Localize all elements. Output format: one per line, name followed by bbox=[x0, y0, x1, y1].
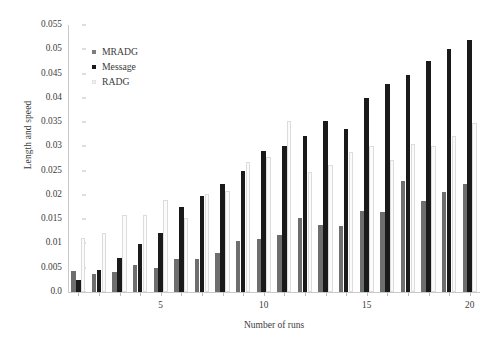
bar-radg-run-20 bbox=[472, 123, 476, 292]
x-tick-label: 15 bbox=[362, 300, 371, 310]
bar-message-run-17 bbox=[406, 75, 410, 292]
bar-chart-figure: Length and speed 0.00.0050.010.0150.020.… bbox=[0, 0, 494, 343]
x-tick-mark bbox=[181, 292, 182, 296]
bar-message-run-13 bbox=[323, 121, 327, 292]
x-tick-mark bbox=[99, 292, 100, 296]
bar-radg-run-8 bbox=[225, 191, 229, 292]
bar-mradg-run-1 bbox=[71, 271, 75, 292]
bar-mradg-run-18 bbox=[421, 201, 425, 292]
x-tick-mark bbox=[449, 292, 450, 296]
bar-radg-run-19 bbox=[452, 136, 456, 292]
bar-radg-run-3 bbox=[122, 215, 126, 292]
x-tick-mark bbox=[78, 292, 79, 296]
bar-group bbox=[212, 25, 233, 292]
bar-radg-run-11 bbox=[287, 121, 291, 292]
legend-item-mradg: MRADG bbox=[92, 44, 212, 59]
bar-mradg-run-15 bbox=[360, 211, 364, 292]
bar-message-run-19 bbox=[447, 49, 451, 292]
y-tick-label: 0.03 bbox=[18, 142, 62, 151]
bar-message-run-15 bbox=[364, 98, 368, 292]
bar-message-run-9 bbox=[241, 171, 245, 292]
bar-message-run-5 bbox=[158, 233, 162, 292]
bar-group bbox=[356, 25, 377, 292]
y-tick-label: 0.05 bbox=[18, 45, 62, 54]
bar-message-run-12 bbox=[303, 136, 307, 292]
bar-group bbox=[439, 25, 460, 292]
legend-label: RADG bbox=[102, 76, 129, 87]
legend-item-radg: RADG bbox=[92, 74, 212, 89]
bar-group bbox=[253, 25, 274, 292]
x-tick-label: 20 bbox=[465, 300, 474, 310]
bar-group bbox=[418, 25, 439, 292]
bar-mradg-run-8 bbox=[215, 253, 219, 292]
x-tick-mark bbox=[264, 292, 265, 296]
bar-message-run-2 bbox=[97, 270, 101, 292]
bar-mradg-run-4 bbox=[133, 265, 137, 292]
bar-mradg-run-9 bbox=[236, 241, 240, 292]
bar-mradg-run-19 bbox=[442, 192, 446, 292]
y-tick-label: 0.015 bbox=[18, 215, 62, 224]
x-tick-mark bbox=[408, 292, 409, 296]
bar-mradg-run-16 bbox=[380, 212, 384, 292]
bar-group bbox=[233, 25, 254, 292]
bar-group bbox=[377, 25, 398, 292]
bar-message-run-3 bbox=[117, 258, 121, 292]
bar-group bbox=[398, 25, 419, 292]
y-tick-label: 0.025 bbox=[18, 166, 62, 175]
bar-group bbox=[68, 25, 89, 292]
bar-mradg-run-12 bbox=[298, 218, 302, 292]
x-tick-mark bbox=[367, 292, 368, 296]
bar-message-run-16 bbox=[385, 84, 389, 292]
bar-message-run-7 bbox=[200, 196, 204, 292]
bar-message-run-4 bbox=[138, 244, 142, 292]
bar-group bbox=[295, 25, 316, 292]
bar-radg-run-15 bbox=[369, 146, 373, 292]
bar-mradg-run-2 bbox=[92, 274, 96, 292]
bar-mradg-run-6 bbox=[174, 259, 178, 292]
bar-mradg-run-17 bbox=[401, 181, 405, 292]
x-tick-label: 10 bbox=[259, 300, 268, 310]
bar-message-run-6 bbox=[179, 207, 183, 292]
bar-message-run-11 bbox=[282, 146, 286, 292]
y-tick-label: 0.055 bbox=[18, 20, 62, 29]
x-tick-mark bbox=[161, 292, 162, 296]
y-tick-label: 0.0 bbox=[18, 287, 62, 296]
legend-swatch-icon bbox=[92, 65, 96, 69]
bar-group bbox=[459, 25, 480, 292]
bar-radg-run-7 bbox=[205, 194, 209, 292]
bar-radg-run-16 bbox=[390, 160, 394, 292]
bar-radg-run-4 bbox=[143, 215, 147, 292]
legend-label: MRADG bbox=[102, 46, 138, 57]
y-axis-tick-labels: 0.00.0050.010.0150.020.0250.030.0350.040… bbox=[18, 18, 62, 296]
bar-radg-run-13 bbox=[328, 165, 332, 292]
bar-radg-run-2 bbox=[102, 233, 106, 292]
bar-radg-run-14 bbox=[349, 152, 353, 292]
x-tick-label: 5 bbox=[158, 300, 163, 310]
bar-radg-run-9 bbox=[246, 162, 250, 292]
bar-mradg-run-5 bbox=[154, 268, 158, 292]
y-tick-label: 0.01 bbox=[18, 239, 62, 248]
bar-message-run-14 bbox=[344, 129, 348, 292]
bar-mradg-run-11 bbox=[277, 235, 281, 292]
x-axis-title: Number of runs bbox=[68, 320, 480, 330]
bar-radg-run-18 bbox=[431, 146, 435, 292]
x-tick-mark bbox=[346, 292, 347, 296]
bar-group bbox=[274, 25, 295, 292]
bar-mradg-run-13 bbox=[318, 225, 322, 292]
x-tick-mark bbox=[429, 292, 430, 296]
x-axis-tick-labels: 5101520 bbox=[68, 292, 480, 322]
bar-message-run-10 bbox=[261, 151, 265, 292]
x-tick-mark bbox=[140, 292, 141, 296]
x-tick-mark bbox=[120, 292, 121, 296]
x-tick-mark bbox=[284, 292, 285, 296]
legend-swatch-icon bbox=[92, 50, 96, 54]
bar-radg-run-10 bbox=[266, 157, 270, 292]
x-tick-mark bbox=[387, 292, 388, 296]
x-tick-mark bbox=[470, 292, 471, 296]
bar-message-run-8 bbox=[220, 184, 224, 292]
chart-legend: MRADGMessageRADG bbox=[92, 44, 212, 89]
y-tick-label: 0.02 bbox=[18, 190, 62, 199]
bar-mradg-run-10 bbox=[257, 239, 261, 292]
legend-swatch-icon bbox=[92, 80, 96, 84]
x-tick-mark bbox=[202, 292, 203, 296]
